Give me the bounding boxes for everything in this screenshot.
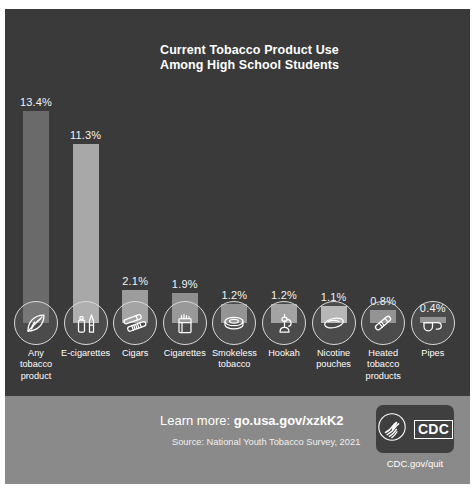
pipe-icon bbox=[411, 301, 455, 345]
hookah-icon bbox=[262, 301, 306, 345]
bar-value-label: 2.1% bbox=[122, 275, 148, 287]
bar bbox=[23, 111, 49, 323]
bar-value-label: 13.4% bbox=[20, 96, 52, 108]
bar-category-label-line: product bbox=[7, 371, 65, 382]
smokeless-tin-icon bbox=[212, 301, 256, 345]
learn-more-url[interactable]: go.usa.gov/xzkK2 bbox=[234, 413, 344, 428]
source-citation: Source: National Youth Tobacco Survey, 2… bbox=[172, 437, 360, 447]
cdc-quit-caption[interactable]: CDC.gov/quit bbox=[376, 458, 454, 469]
bar-category-label-line: tobacco bbox=[354, 359, 412, 370]
bar-category-label-line: tobacco bbox=[7, 359, 65, 370]
bar-chart-plot: 13.4% Anytobaccoproduct11.3% E-cigarette… bbox=[5, 9, 470, 396]
bar-column: 11.3% bbox=[63, 129, 109, 323]
learn-more-text: Learn more: go.usa.gov/xzkK2 bbox=[160, 413, 344, 428]
cdc-logo: CDC bbox=[376, 405, 454, 453]
bar-category-label: Pipes bbox=[404, 348, 462, 359]
e-cigarette-icon bbox=[64, 301, 108, 345]
bar-value-label: 1.2% bbox=[271, 289, 297, 301]
bar-value-label: 1.9% bbox=[172, 278, 198, 290]
nicotine-pouch-icon bbox=[312, 301, 356, 345]
infographic-poster: Current Tobacco Product Use Among High S… bbox=[0, 0, 475, 494]
bar-column: 13.4% bbox=[13, 96, 59, 323]
hhs-swoosh-icon bbox=[377, 410, 411, 448]
bar bbox=[73, 144, 99, 323]
bar-category-label-line: Pipes bbox=[404, 348, 462, 359]
bar-value-label: 11.3% bbox=[70, 129, 101, 141]
cdc-wordmark: CDC bbox=[414, 420, 453, 439]
chart-panel: Current Tobacco Product Use Among High S… bbox=[5, 9, 470, 396]
cigars-icon bbox=[113, 301, 157, 345]
footer-band: Learn more: go.usa.gov/xzkK2 Source: Nat… bbox=[5, 396, 470, 484]
bar-value-label: 1.2% bbox=[221, 289, 247, 301]
tobacco-leaf-icon bbox=[14, 301, 58, 345]
heated-tobacco-icon bbox=[361, 301, 405, 345]
cigarette-pack-icon bbox=[163, 301, 207, 345]
bar-category-label-line: products bbox=[354, 371, 412, 382]
learn-more-prefix: Learn more: bbox=[160, 413, 234, 428]
bar-category-label-line: tobacco bbox=[205, 359, 263, 370]
